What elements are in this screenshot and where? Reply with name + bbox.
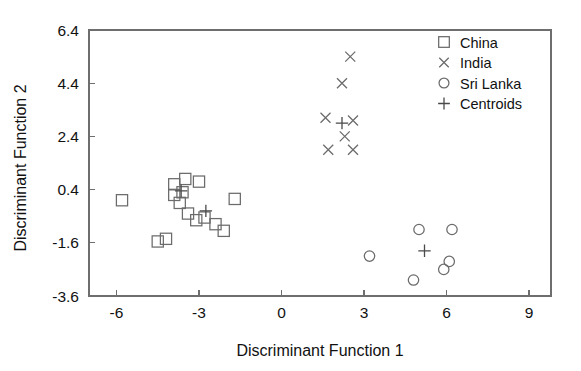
discriminant-scatter-chart: -6-30369 -3.6-1.60.42.44.46.4 ChinaIndia… bbox=[0, 0, 581, 371]
legend-label-0: China bbox=[460, 35, 499, 51]
x-tick-label: 6 bbox=[442, 304, 451, 321]
y-tick-label: 4.4 bbox=[57, 75, 79, 92]
x-tick-label: -3 bbox=[192, 304, 206, 321]
y-tick-label: 0.4 bbox=[57, 181, 79, 198]
y-tick-label: -3.6 bbox=[52, 288, 79, 305]
x-tick-label: -6 bbox=[110, 304, 124, 321]
y-tick-label: -1.6 bbox=[52, 234, 79, 251]
x-tick-label: 3 bbox=[360, 304, 369, 321]
legend-label-1: India bbox=[460, 55, 492, 71]
legend-label-2: Sri Lanka bbox=[460, 76, 522, 92]
chart-background bbox=[0, 0, 581, 371]
y-axis-title: Discriminant Function 2 bbox=[12, 84, 29, 251]
x-tick-label: 0 bbox=[277, 304, 286, 321]
y-tick-label: 6.4 bbox=[57, 22, 79, 39]
scatter-plot-figure: -6-30369 -3.6-1.60.42.44.46.4 ChinaIndia… bbox=[0, 0, 581, 371]
x-tick-label: 9 bbox=[525, 304, 534, 321]
y-tick-label: 2.4 bbox=[57, 128, 79, 145]
legend-label-3: Centroids bbox=[460, 96, 522, 112]
x-axis-title: Discriminant Function 1 bbox=[236, 342, 403, 359]
